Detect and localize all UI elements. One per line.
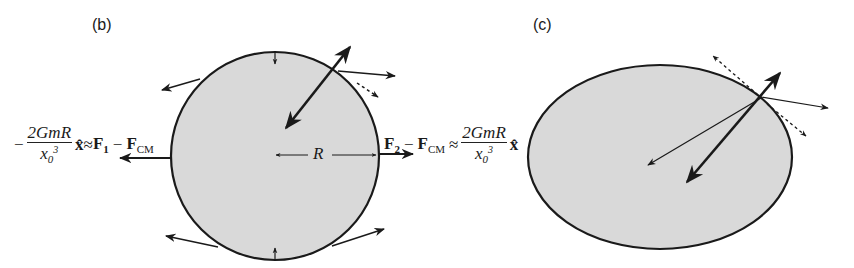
force-symbol: F: [417, 134, 427, 153]
force-symbol: F: [126, 134, 136, 153]
denominator: x03: [475, 143, 493, 165]
numerator: 2GmR: [461, 124, 506, 143]
force-fcm: FCM: [126, 134, 154, 155]
force-fcm: FCM: [417, 134, 445, 155]
approx-sign: ≈: [84, 135, 93, 155]
tidal-force-arrow: [338, 71, 395, 76]
denominator-sup: 3: [53, 144, 58, 155]
tidal-arrow-upper-left: [162, 79, 200, 90]
minus-operator: −: [404, 135, 414, 155]
force-f2: F2: [384, 134, 400, 155]
right-force-expression: F2 − FCM ≈ 2GmR x03 x̂: [384, 124, 518, 165]
denominator-sup: 3: [488, 144, 493, 155]
minus-sign: −: [14, 135, 24, 155]
fraction: 2GmR x03: [27, 124, 72, 165]
force-sub: 1: [103, 143, 109, 155]
denominator-base: x: [40, 144, 48, 163]
panel-c-diagram: [528, 56, 828, 249]
force-sub: 2: [394, 143, 400, 155]
approx-sign: ≈: [449, 135, 458, 155]
force-sub: CM: [137, 143, 154, 155]
deformed-body: [528, 65, 792, 249]
panel-label-b: (b): [92, 16, 112, 34]
denominator: x03: [40, 143, 58, 165]
unit-vector: x̂: [510, 135, 519, 155]
panel-label-c: (c): [533, 16, 552, 34]
force-symbol: F: [384, 134, 394, 153]
radius-label: R: [313, 144, 323, 164]
left-force-expression: − 2GmR x03 x̂ ≈ F1 − FCM: [14, 124, 154, 165]
force-symbol: F: [93, 134, 103, 153]
spherical-body: [171, 52, 379, 260]
force-sub: CM: [428, 143, 445, 155]
denominator-base: x: [475, 144, 483, 163]
force-f1: F1: [93, 134, 109, 155]
panel-b-diagram: [120, 47, 413, 260]
fraction: 2GmR x03: [461, 124, 506, 165]
unit-vector: x̂: [75, 135, 84, 155]
minus-operator: −: [113, 135, 123, 155]
numerator: 2GmR: [27, 124, 72, 143]
